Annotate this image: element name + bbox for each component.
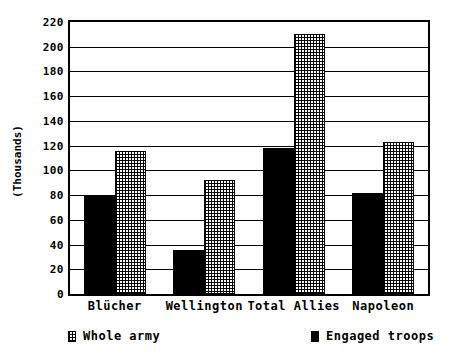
bar-engaged-troops <box>173 250 204 295</box>
gridline <box>70 96 428 97</box>
chart-legend: Whole army Engaged troops <box>68 330 438 350</box>
x-axis-tick-label: Blücher <box>88 299 142 313</box>
y-axis-tick-label: 80 <box>22 190 64 201</box>
x-axis-tick-label: Wellington <box>166 299 243 313</box>
y-axis-tick-label: 180 <box>22 66 64 77</box>
x-axis-tick-labels: BlücherWellingtonTotal AlliesNapoleon <box>68 299 430 315</box>
y-axis-tick-label: 200 <box>22 41 64 52</box>
y-axis-tick-label: 140 <box>22 115 64 126</box>
bar-whole-army <box>204 180 235 294</box>
plot-area <box>68 20 430 296</box>
legend-item-engaged-troops: Engaged troops <box>311 330 434 343</box>
legend-swatch-whole-army-icon <box>68 331 76 342</box>
bar-engaged-troops <box>84 195 115 294</box>
legend-swatch-engaged-troops-icon <box>311 331 319 342</box>
y-axis-tick-label: 220 <box>22 17 64 28</box>
gridline <box>70 121 428 122</box>
x-axis-tick-label: Total Allies <box>247 299 340 313</box>
y-axis-tick-label: 40 <box>22 239 64 250</box>
bar-whole-army <box>294 34 325 294</box>
y-axis-tick-label: 60 <box>22 214 64 225</box>
bar-whole-army <box>383 142 414 294</box>
bar-engaged-troops <box>352 193 383 294</box>
y-axis-tick-label: 120 <box>22 140 64 151</box>
y-axis-tick-label: 20 <box>22 264 64 275</box>
plot-inner <box>70 22 428 294</box>
y-axis-tick-label: 0 <box>22 289 64 300</box>
bar-chart: (Thousands) 2202001801601401201008060402… <box>0 0 465 357</box>
y-axis-tick-labels: 220200180160140120100806040200 <box>22 0 64 357</box>
y-axis-tick-label: 100 <box>22 165 64 176</box>
gridline <box>70 47 428 48</box>
bar-whole-army <box>115 151 146 294</box>
legend-label-whole-army: Whole army <box>83 330 160 343</box>
y-axis-tick-label: 160 <box>22 91 64 102</box>
legend-item-whole-army: Whole army <box>68 330 160 343</box>
gridline <box>70 71 428 72</box>
legend-label-engaged-troops: Engaged troops <box>326 330 434 343</box>
bar-engaged-troops <box>263 148 294 294</box>
gridline <box>70 146 428 147</box>
x-axis-tick-label: Napoleon <box>352 299 414 313</box>
